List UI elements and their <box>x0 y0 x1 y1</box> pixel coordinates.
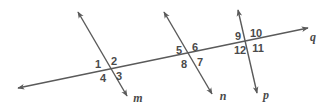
angle-label-11: 11 <box>252 42 264 54</box>
angle-label-12: 12 <box>234 44 246 56</box>
angle-label-8: 8 <box>181 58 187 70</box>
line-label-m: m <box>133 91 142 105</box>
angle-label-9: 9 <box>235 30 241 42</box>
angle-label-10: 10 <box>250 27 262 39</box>
geometry-diagram: m n p q 1 2 3 4 5 6 7 8 9 10 11 12 <box>0 0 334 112</box>
line-label-n: n <box>220 89 227 103</box>
angle-label-7: 7 <box>197 56 203 68</box>
intersection-p-q: 9 10 11 12 <box>234 27 264 56</box>
angle-label-3: 3 <box>116 70 122 82</box>
diagram-canvas: m n p q 1 2 3 4 5 6 7 8 9 10 11 12 <box>0 0 334 112</box>
angle-label-2: 2 <box>111 55 117 67</box>
line-q <box>18 28 308 88</box>
angle-label-4: 4 <box>100 72 107 84</box>
angle-label-1: 1 <box>95 58 101 70</box>
angle-label-6: 6 <box>192 41 198 53</box>
angle-label-5: 5 <box>176 44 182 56</box>
line-label-p: p <box>262 88 269 102</box>
line-label-q: q <box>310 30 316 44</box>
